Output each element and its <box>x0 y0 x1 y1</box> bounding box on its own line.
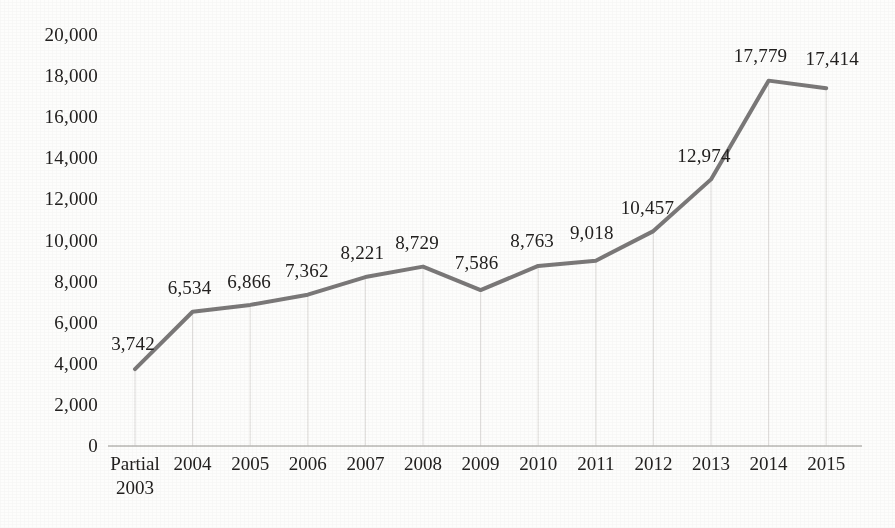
y-axis-tick-12000: 12,000 <box>8 188 98 210</box>
y-axis-tick-10000: 10,000 <box>8 230 98 252</box>
chart-plot-area <box>0 0 895 528</box>
data-label-2005: 6,866 <box>227 271 271 293</box>
x-axis-tick-2015: 2015 <box>766 452 886 476</box>
data-label-2012: 10,457 <box>621 197 674 219</box>
y-axis-tick-4000: 4,000 <box>8 353 98 375</box>
y-axis-tick-18000: 18,000 <box>8 65 98 87</box>
data-label-2008: 8,729 <box>395 232 439 254</box>
line-chart: 02,0004,0006,0008,00010,00012,00014,0001… <box>0 0 895 528</box>
y-axis-tick-14000: 14,000 <box>8 147 98 169</box>
data-label-2010: 8,763 <box>510 230 554 252</box>
data-label-2007: 8,221 <box>341 242 385 264</box>
y-axis-tick-6000: 6,000 <box>8 312 98 334</box>
data-label-2011: 9,018 <box>570 222 614 244</box>
data-label-2015: 17,414 <box>805 48 858 70</box>
data-label-2009: 7,586 <box>455 252 499 274</box>
y-axis-tick-8000: 8,000 <box>8 271 98 293</box>
data-label-2004: 6,534 <box>168 277 212 299</box>
data-label-2013: 12,974 <box>677 145 730 167</box>
data-label-2006: 7,362 <box>285 260 329 282</box>
y-axis-tick-16000: 16,000 <box>8 106 98 128</box>
data-label-partial-2003: 3,742 <box>111 333 155 355</box>
data-label-2014: 17,779 <box>734 45 787 67</box>
y-axis-tick-20000: 20,000 <box>8 24 98 46</box>
y-axis-tick-2000: 2,000 <box>8 394 98 416</box>
